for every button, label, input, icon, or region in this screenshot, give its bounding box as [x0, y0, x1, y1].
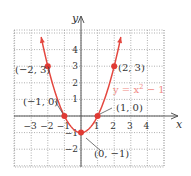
point-label: (1, 0) — [116, 102, 143, 113]
data-point — [78, 130, 84, 136]
point-label: (0, −1) — [94, 148, 129, 159]
y-tick-label: −2 — [65, 144, 78, 154]
y-tick-label: 3 — [72, 61, 78, 71]
equation-base: y = x — [112, 84, 139, 95]
x-axis-label: x — [176, 118, 183, 131]
point-label: (−2, 3) — [15, 64, 50, 75]
x-tick-label: 3 — [127, 121, 133, 131]
point-label: (2, 3) — [118, 62, 145, 73]
point-labels: (−2, 3)(2, 3)(−1, 0)(1, 0)(0, −1) — [15, 62, 145, 159]
parabola-chart: −3−2−11234−2−11234 (−2, 3)(2, 3)(−1, 0)(… — [0, 0, 191, 176]
y-axis-label: y — [71, 12, 79, 25]
x-tick-label: −2 — [40, 121, 53, 131]
y-tick-label: 2 — [72, 78, 78, 88]
y-tick-label: −1 — [65, 128, 78, 138]
equation-tail: − 1 — [144, 84, 165, 95]
equation-label: y = x2 − 1 — [112, 83, 165, 95]
y-tick-label: 1 — [72, 94, 78, 104]
x-tick-label: −3 — [24, 121, 38, 131]
x-tick-label: 4 — [144, 121, 150, 131]
data-point — [61, 113, 67, 119]
point-label: (−1, 0) — [23, 96, 58, 107]
data-point — [111, 63, 117, 69]
x-tick-label: 2 — [110, 121, 116, 131]
y-tick-label: 4 — [72, 45, 78, 55]
data-point — [95, 113, 101, 119]
